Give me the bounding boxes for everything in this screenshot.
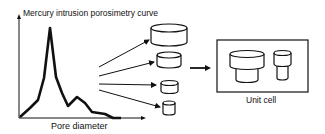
assembly-arrow: [190, 65, 211, 71]
distribution-arrows: [99, 40, 160, 107]
cylinder-icon: [157, 52, 181, 68]
cylinder-icon: [161, 81, 178, 94]
x-axis-label: Pore diameter: [51, 122, 108, 131]
unit-cell-label: Unit cell: [246, 96, 276, 105]
cylinder-icon: [163, 101, 175, 115]
chart-title: Mercury intrusion porosimetry curve: [23, 9, 158, 18]
y-axis: [17, 14, 21, 118]
small-stacked-cylinder-icon: [274, 51, 291, 81]
x-axis: [19, 116, 146, 120]
porosimetry-curve: [20, 28, 121, 118]
pore-model-diagram: Mercury intrusion porosimetry curve Pore…: [0, 0, 325, 134]
cylinder-icon: [151, 24, 187, 46]
